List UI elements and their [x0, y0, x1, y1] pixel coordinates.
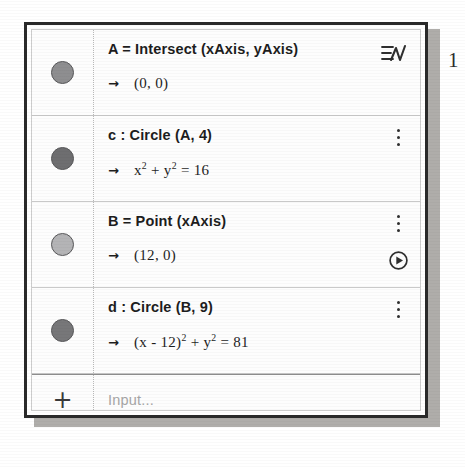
visibility-dot[interactable] [51, 147, 74, 170]
algebra-view-inner: A = Intersect (xAxis, yAxis) →(0, 0) [31, 29, 421, 411]
algebra-row[interactable]: c : Circle (A, 4) →x2 + y2 = 16 [32, 116, 420, 202]
output-line: →x2 + y2 = 16 [108, 161, 368, 179]
algebra-view-panel: A = Intersect (xAxis, yAxis) →(0, 0) [24, 22, 428, 418]
algebra-row[interactable]: A = Intersect (xAxis, yAxis) →(0, 0) [32, 30, 420, 116]
row-actions [368, 202, 420, 287]
kebab-menu-icon[interactable] [397, 301, 401, 322]
row-content[interactable]: d : Circle (B, 9) →(x - 12)2 + y2 = 81 [94, 288, 368, 373]
visibility-dot[interactable] [51, 233, 74, 256]
kebab-menu-icon[interactable] [397, 215, 401, 236]
algebra-row[interactable]: d : Circle (B, 9) →(x - 12)2 + y2 = 81 [32, 288, 420, 374]
add-input-button[interactable]: + [32, 375, 94, 411]
marker-cell[interactable] [32, 288, 94, 373]
row-actions [368, 116, 420, 201]
marker-cell[interactable] [32, 116, 94, 201]
arrow-icon: → [108, 336, 134, 350]
row-content[interactable]: c : Circle (A, 4) →x2 + y2 = 16 [94, 116, 368, 201]
output-value: (12, 0) [134, 247, 176, 263]
output-line: →(0, 0) [108, 75, 368, 92]
definition-text: d : Circle (B, 9) [108, 300, 368, 316]
output-value: (x - 12)2 + y2 = 81 [134, 334, 249, 350]
play-animate-icon[interactable] [388, 250, 409, 271]
visibility-dot[interactable] [51, 319, 74, 342]
row-actions [368, 30, 420, 115]
menu-chart-icon[interactable] [380, 42, 410, 66]
output-line: →(x - 12)2 + y2 = 81 [108, 333, 368, 351]
arrow-icon: → [108, 249, 134, 263]
input-row[interactable]: + Input... [32, 374, 420, 411]
definition-text: B = Point (xAxis) [108, 214, 368, 230]
algebra-row[interactable]: B = Point (xAxis) →(12, 0) [32, 202, 420, 288]
arrow-icon: → [108, 164, 134, 178]
definition-text: c : Circle (A, 4) [108, 128, 368, 144]
visibility-dot[interactable] [51, 61, 74, 84]
marker-cell[interactable] [32, 30, 94, 115]
row-actions [368, 288, 420, 373]
output-value: (0, 0) [134, 75, 168, 91]
output-value: x2 + y2 = 16 [134, 162, 209, 178]
output-line: →(12, 0) [108, 247, 368, 264]
algebra-input-field[interactable]: Input... [94, 375, 420, 411]
marker-cell[interactable] [32, 202, 94, 287]
row-content[interactable]: B = Point (xAxis) →(12, 0) [94, 202, 368, 287]
page-number: 1 [448, 48, 459, 73]
row-content[interactable]: A = Intersect (xAxis, yAxis) →(0, 0) [94, 30, 368, 115]
definition-text: A = Intersect (xAxis, yAxis) [108, 42, 368, 58]
arrow-icon: → [108, 77, 134, 91]
kebab-menu-icon[interactable] [397, 129, 401, 150]
